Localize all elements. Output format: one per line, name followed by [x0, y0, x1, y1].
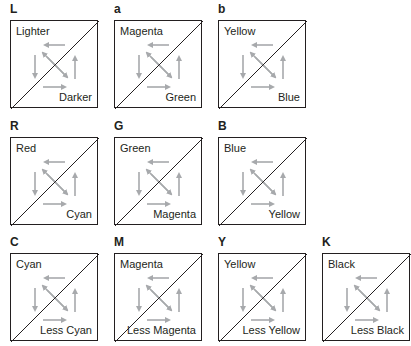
channel-box: Magenta Green — [114, 20, 202, 108]
top-label: Red — [16, 142, 36, 154]
channel-box: Magenta Less Magenta — [114, 253, 202, 341]
channel-box: Cyan Less Cyan — [10, 253, 98, 341]
channel-box: Green Magenta — [114, 137, 202, 225]
channel-letter: Y — [218, 236, 226, 248]
bottom-label: Less Yellow — [243, 324, 301, 336]
channel-letter: R — [10, 120, 19, 132]
bottom-label: Cyan — [66, 208, 92, 220]
top-label: Black — [328, 258, 355, 270]
top-label: Blue — [224, 142, 246, 154]
channel-box: Lighter Darker — [10, 20, 98, 108]
bottom-label: Green — [165, 91, 196, 103]
top-label: Yellow — [224, 25, 255, 37]
channel-box: Red Cyan — [10, 137, 98, 225]
top-label: Green — [120, 142, 151, 154]
bottom-label: Less Black — [351, 324, 404, 336]
bottom-label: Less Magenta — [127, 324, 196, 336]
channel-letter: G — [114, 120, 123, 132]
top-label: Magenta — [120, 258, 163, 270]
bottom-label: Magenta — [153, 208, 196, 220]
bottom-label: Blue — [278, 91, 300, 103]
top-label: Cyan — [16, 258, 42, 270]
top-label: Yellow — [224, 258, 255, 270]
channel-letter: L — [10, 3, 17, 15]
channel-letter: M — [114, 236, 124, 248]
top-label: Lighter — [16, 25, 50, 37]
channel-box: Yellow Blue — [218, 20, 306, 108]
bottom-label: Less Cyan — [40, 324, 92, 336]
bottom-label: Darker — [59, 91, 92, 103]
channel-letter: B — [218, 120, 227, 132]
channel-box: Black Less Black — [322, 253, 410, 341]
channel-letter: C — [10, 236, 19, 248]
channel-letter: b — [218, 3, 225, 15]
bottom-label: Yellow — [269, 208, 300, 220]
channel-box: Yellow Less Yellow — [218, 253, 306, 341]
channel-letter: K — [322, 236, 331, 248]
channel-letter: a — [114, 3, 121, 15]
top-label: Magenta — [120, 25, 163, 37]
channel-box: Blue Yellow — [218, 137, 306, 225]
